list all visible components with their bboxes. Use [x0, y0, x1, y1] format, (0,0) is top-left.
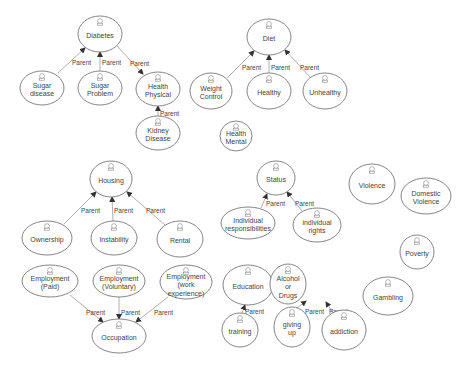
node-rental[interactable]: Rental	[157, 221, 203, 257]
node-violence[interactable]: Violence	[349, 164, 395, 204]
edge-label: Parent	[102, 59, 121, 66]
node-label: disease	[30, 90, 54, 97]
node-poverty[interactable]: Poverty	[400, 235, 434, 269]
edge-diabetes-to-health-physical[interactable]: Parent	[117, 46, 149, 74]
edge-sugar-disease-to-diabetes[interactable]: Parent	[58, 48, 91, 73]
edge-label: Parent	[114, 207, 133, 214]
node-diet[interactable]: Diet	[247, 19, 291, 55]
node-label: Drugs	[279, 292, 298, 300]
node-kidney-disease[interactable]: KidneyDisease	[136, 116, 180, 150]
edge-label: Parent	[146, 207, 165, 214]
use-case-icon	[315, 211, 320, 218]
node-unhealthy[interactable]: Unhealthy	[303, 73, 347, 109]
node-addiction[interactable]: addiction	[322, 310, 366, 350]
use-case-icon	[290, 310, 295, 317]
node-housing[interactable]: Housing	[90, 161, 132, 197]
node-label: (Voluntary)	[102, 283, 136, 291]
node-status[interactable]: Status	[257, 161, 295, 195]
edge-label: Parent	[242, 64, 261, 71]
node-sugar-problem[interactable]: SugarProblem	[78, 71, 122, 105]
node-label: Disease	[145, 135, 170, 142]
use-case-icon	[267, 22, 272, 29]
use-case-icon	[98, 19, 103, 26]
node-label: Sugar	[91, 82, 110, 90]
node-occupation[interactable]: Occupation	[92, 319, 146, 353]
node-diabetes[interactable]: Diabetes	[78, 16, 122, 52]
edge-arrow	[112, 197, 113, 221]
edge-weight-control-to-diet[interactable]: Parent	[227, 51, 261, 78]
node-weight-control[interactable]: WeightControl	[190, 73, 232, 109]
edge-label: Parent	[271, 64, 290, 71]
node-employment-paid[interactable]: Employment(Paid)	[22, 265, 78, 297]
node-label: responsibilities	[225, 225, 271, 233]
node-employment-voluntary[interactable]: Employment(Voluntary)	[93, 265, 145, 297]
node-label: Unhealthy	[309, 89, 341, 97]
use-case-icon	[48, 268, 53, 275]
edge-label: Parent	[121, 309, 140, 316]
edge-label: Parent	[305, 308, 324, 315]
edge-label: Parent	[295, 200, 314, 207]
node-label: Diet	[263, 35, 276, 42]
edge-label: Parent	[81, 207, 100, 214]
node-individual-responsibilities[interactable]: Individualresponsibilities	[221, 207, 275, 239]
edge-individual-responsibilities-to-status[interactable]: Parent	[261, 194, 285, 208]
node-label: rights	[308, 227, 326, 235]
use-case-icon	[98, 74, 103, 81]
use-case-icon	[286, 267, 291, 274]
use-case-icon	[342, 313, 347, 320]
node-domestic-violence[interactable]: DomesticViolence	[401, 178, 451, 214]
node-health-mental[interactable]: HealthMental	[220, 121, 252, 151]
edge-employment-paid-to-occupation[interactable]: Parent	[70, 295, 105, 322]
use-case-icon	[246, 268, 251, 275]
node-gambling[interactable]: Gambling	[363, 277, 413, 315]
use-case-icon	[156, 75, 161, 82]
edge-arrow	[297, 301, 306, 308]
node-health-physical[interactable]: HealthPhysical	[136, 72, 180, 106]
node-alcohol-or-drugs[interactable]: AlcoholorDrugs	[270, 264, 306, 304]
node-label: or	[285, 283, 292, 290]
node-instability[interactable]: Instability	[91, 221, 137, 255]
use-case-icon	[323, 76, 328, 83]
node-label: Alcohol	[277, 275, 300, 282]
edge-healthy-to-diet[interactable]: Parent	[269, 55, 290, 73]
use-case-icon	[209, 76, 214, 83]
use-case-icon	[415, 238, 420, 245]
edge-employment-work-experience-to-occupation[interactable]: Parent	[136, 297, 173, 322]
node-healthy[interactable]: Healthy	[247, 73, 291, 109]
use-case-icon	[117, 322, 122, 329]
node-label: Diabetes	[86, 32, 114, 39]
node-ownership[interactable]: Ownership	[22, 221, 72, 255]
use-case-icon	[40, 74, 45, 81]
nodes-layer: DiabetesSugardiseaseSugarProblemHealthPh…	[20, 16, 451, 353]
node-education[interactable]: Education	[223, 265, 273, 305]
node-label: Education	[232, 283, 263, 290]
use-case-icon	[274, 164, 279, 171]
use-case-icon	[45, 224, 50, 231]
node-label: Gambling	[373, 294, 403, 302]
node-label: Poverty	[405, 250, 429, 258]
use-case-icon	[117, 268, 122, 275]
edge-sugar-problem-to-diabetes[interactable]: Parent	[100, 52, 121, 71]
edge-ownership-to-housing[interactable]: Parent	[64, 192, 100, 224]
node-label: Housing	[98, 177, 124, 185]
node-giving-up[interactable]: givingup	[274, 307, 310, 347]
node-label: Employment	[167, 273, 206, 281]
use-case-icon	[178, 224, 183, 231]
node-training[interactable]: training	[222, 313, 258, 347]
node-individual-rights[interactable]: individualrights	[293, 208, 341, 242]
node-label: Instability	[99, 236, 129, 244]
use-case-icon	[246, 210, 251, 217]
use-case-icon	[267, 76, 272, 83]
edge-individual-rights-to-status[interactable]: Parent	[287, 192, 314, 211]
node-label: Kidney	[147, 127, 169, 135]
node-employment-work-experience[interactable]: Employment(workexperience)	[160, 265, 212, 299]
edge-employment-voluntary-to-occupation[interactable]: Parent	[119, 297, 140, 319]
edge-kidney-disease-to-health-physical[interactable]: Parent	[158, 106, 179, 117]
node-label: Violence	[359, 182, 386, 189]
use-case-icon	[424, 181, 429, 188]
edge-instability-to-housing[interactable]: Parent	[112, 197, 133, 221]
node-label: Problem	[87, 90, 113, 97]
diagram-canvas: ParentParentParentParentParentParentPare…	[0, 0, 473, 372]
node-label: Employment	[31, 275, 70, 283]
node-sugar-disease[interactable]: Sugardisease	[20, 71, 64, 105]
